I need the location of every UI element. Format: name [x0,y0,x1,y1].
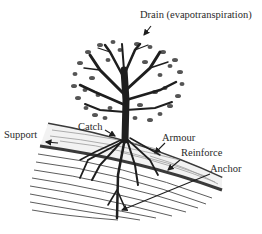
label-drain: Drain (evapotranspiration) [140,10,252,21]
label-support: Support [4,130,37,141]
drain-arrow [144,26,151,35]
label-catch: Catch [78,122,103,133]
diagram-artwork [0,0,262,234]
anchor-arrow [122,174,210,210]
label-anchor: Anchor [210,164,242,175]
tree-slope-diagram: Drain (evapotranspiration) Support Catch… [0,0,262,234]
label-reinforce: Reinforce [181,148,222,159]
catch-arrow [105,130,115,136]
label-armour: Armour [162,133,195,144]
